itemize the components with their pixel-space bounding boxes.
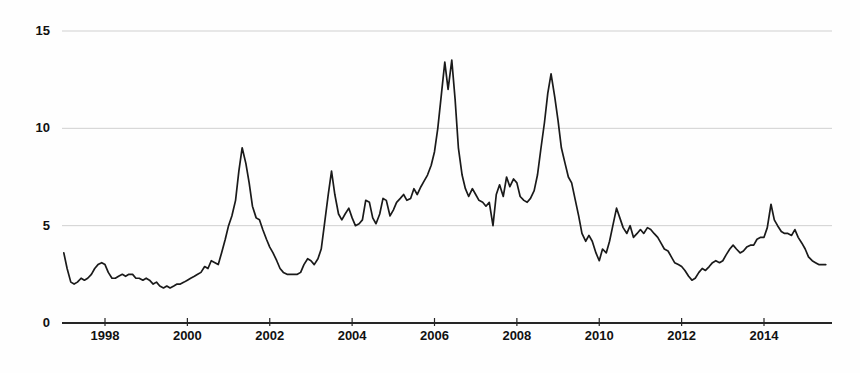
x-tick-label-2010: 2010 (569, 329, 629, 342)
x-axis-ticks (105, 318, 764, 326)
y-tick-label-5: 5 (16, 219, 50, 232)
y-tick-label-10: 10 (16, 121, 50, 134)
x-tick-label-2002: 2002 (240, 329, 300, 342)
x-tick-label-2012: 2012 (652, 329, 712, 342)
x-tick-label-2006: 2006 (405, 329, 465, 342)
y-tick-label-0: 0 (16, 316, 50, 329)
x-tick-label-2004: 2004 (322, 329, 382, 342)
gridlines (62, 31, 832, 226)
line-chart: 151050 199820002002200420062008201020122… (0, 0, 860, 373)
x-tick-label-2008: 2008 (487, 329, 547, 342)
y-tick-label-15: 15 (16, 24, 50, 37)
chart-plot-area (0, 0, 860, 373)
data-line-series-1 (64, 60, 826, 288)
x-tick-label-1998: 1998 (75, 329, 135, 342)
x-tick-label-2000: 2000 (157, 329, 217, 342)
x-tick-label-2014: 2014 (734, 329, 794, 342)
